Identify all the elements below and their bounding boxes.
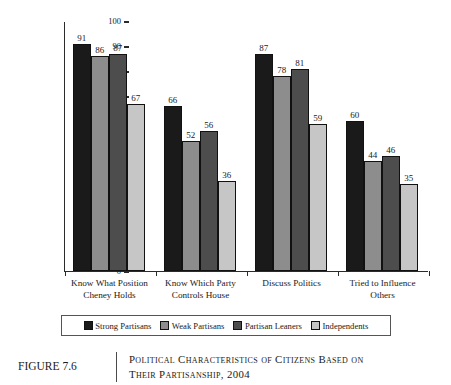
bar	[109, 54, 127, 272]
y-axis-tick-mark	[124, 21, 129, 22]
x-axis-category-label: Know What PositionCheney Holds	[64, 278, 155, 301]
y-axis-tick-label: 100	[108, 14, 121, 29]
x-axis-category-label-line: Others	[337, 290, 428, 302]
legend-item: Weak Partisans	[160, 321, 224, 331]
figure-caption-text: Political Characteristics of Citizens Ba…	[129, 352, 364, 382]
legend-item: Strong Partisans	[84, 321, 152, 331]
chart-legend: Strong PartisansWeak PartisansPartisan L…	[61, 315, 391, 336]
x-axis-category-label-line: Controls House	[155, 290, 246, 302]
caption-line-2: Their Partisanship, 2004	[129, 367, 364, 382]
plot-area: 1009080706050403020100 91868767665256368…	[64, 22, 428, 272]
bar-value-label: 46	[376, 145, 406, 155]
bar	[182, 141, 200, 271]
legend-label: Weak Partisans	[172, 321, 225, 331]
legend-swatch-icon	[84, 321, 93, 330]
bar	[255, 54, 273, 272]
legend-label: Strong Partisans	[95, 321, 151, 331]
bar	[273, 76, 291, 271]
x-axis-tick-mark	[65, 271, 66, 276]
x-axis-category-label-line: Discuss Politics	[246, 278, 337, 290]
bar	[127, 104, 145, 272]
bar-value-label: 87	[249, 43, 279, 53]
bar	[91, 56, 109, 271]
bar-value-label: 66	[158, 95, 188, 105]
bar-value-label: 60	[340, 110, 370, 120]
x-axis-tick-mark	[338, 271, 339, 276]
legend-swatch-icon	[233, 321, 242, 330]
x-axis-category-label: Tried to InfluenceOthers	[337, 278, 428, 301]
bar-value-label: 59	[303, 113, 333, 123]
bar-value-label: 91	[67, 33, 97, 43]
legend-label: Independents	[322, 321, 368, 331]
bar-value-label: 81	[285, 58, 315, 68]
bar-value-label: 36	[212, 170, 242, 180]
bar	[346, 121, 364, 271]
bar-value-label: 87	[103, 43, 133, 53]
x-axis-tick-mark	[247, 271, 248, 276]
figure-container: Percent 1009080706050403020100 918687676…	[0, 0, 451, 385]
caption-line-1: Political Characteristics of Citizens Ba…	[129, 352, 364, 367]
bar-value-label: 67	[121, 93, 151, 103]
x-axis-category-label: Know Which PartyControls House	[155, 278, 246, 301]
legend-item: Partisan Leaners	[233, 321, 302, 331]
bar	[73, 44, 91, 272]
x-axis-category-label-line: Cheney Holds	[64, 290, 155, 302]
bar	[291, 69, 309, 272]
legend-label: Partisan Leaners	[245, 321, 302, 331]
x-axis-tick-mark	[429, 271, 430, 276]
figure-number: FIGURE 7.6	[18, 352, 116, 372]
figure-caption-row: FIGURE 7.6 Political Characteristics of …	[18, 352, 438, 382]
legend-swatch-icon	[311, 321, 320, 330]
bar	[309, 124, 327, 272]
bar	[400, 184, 418, 272]
x-axis-category-label-line: Tried to Influence	[337, 278, 428, 290]
y-axis-tick-mark	[124, 271, 129, 272]
bar-value-label: 35	[394, 173, 424, 183]
x-axis-category-label-line: Know Which Party	[155, 278, 246, 290]
legend-swatch-icon	[160, 321, 169, 330]
x-axis-category-label: Discuss Politics	[246, 278, 337, 290]
bar	[364, 161, 382, 271]
bar	[200, 131, 218, 271]
caption-divider	[116, 352, 117, 382]
x-axis-tick-mark	[156, 271, 157, 276]
bar	[218, 181, 236, 271]
bar-chart: Percent 1009080706050403020100 918687676…	[0, 0, 451, 300]
legend-item: Independents	[311, 321, 368, 331]
bar-value-label: 56	[194, 120, 224, 130]
x-axis-category-label-line: Know What Position	[64, 278, 155, 290]
